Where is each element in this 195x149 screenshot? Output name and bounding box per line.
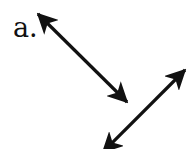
- double-arrow-line-2: [103, 70, 185, 149]
- lines-drawing: [0, 0, 195, 149]
- diagram-canvas: a.: [0, 0, 195, 149]
- double-arrow-line-1: [38, 14, 127, 102]
